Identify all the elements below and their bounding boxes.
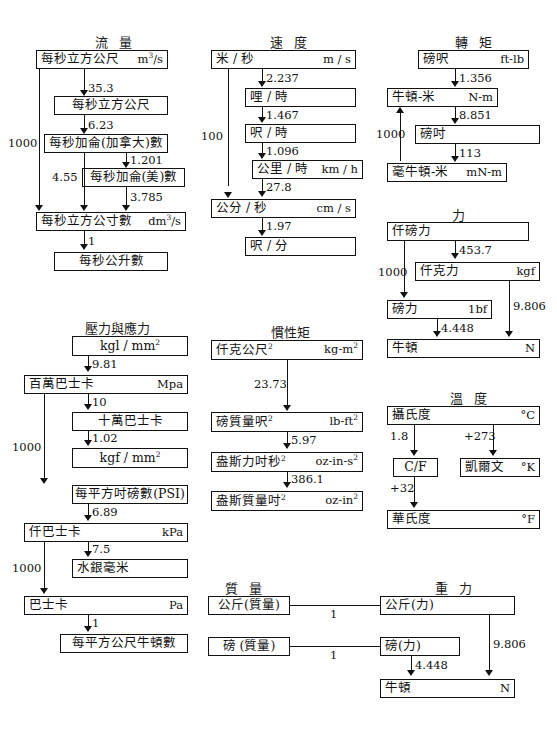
- connector-arrow: [489, 450, 497, 456]
- section-heading-inertia: 慣性矩: [235, 322, 345, 341]
- box-unit: kgf: [516, 266, 535, 278]
- connector-arrow: [258, 191, 266, 197]
- factor-label: 1: [88, 234, 95, 248]
- box-label: 磅質量呎2: [216, 416, 273, 429]
- factor-label: 1.8: [390, 429, 408, 443]
- box-pound-force-weight: 磅(力): [380, 637, 460, 656]
- connector-arrow: [84, 626, 92, 632]
- box-newton-per-square-metre: 每平方公尺牛頓數: [60, 634, 188, 653]
- box-foot-pound: 磅呎 ft-lb: [418, 50, 529, 69]
- box-millinewton-metre: 毫牛頓-米 mN-m: [387, 163, 507, 182]
- section-heading-torque: 轉 矩: [420, 32, 530, 51]
- box-label: 磅呎: [423, 53, 449, 66]
- box-megapascal: 百萬巴士卡 Mpa: [24, 375, 188, 394]
- section-heading-temperature: 溫 度: [425, 388, 515, 407]
- factor-label: 1000: [12, 440, 41, 454]
- box-label: kgl / mm2: [100, 340, 160, 353]
- factor-label: 1: [92, 616, 99, 630]
- box-label: 哩 / 時: [250, 91, 288, 104]
- connector-line: [39, 69, 40, 206]
- box-label: 公斤(質量): [218, 599, 280, 612]
- box-label: 水銀毫米: [77, 562, 129, 575]
- box-label: 每秒立方公寸數: [41, 215, 132, 228]
- box-unit: N: [500, 683, 510, 695]
- box-label: 磅力: [392, 303, 418, 316]
- factor-label: 4.55: [52, 170, 78, 184]
- box-label: 仟巴士卡: [29, 526, 81, 539]
- factor-label: 1: [330, 648, 337, 662]
- factor-label: 453.7: [459, 243, 492, 257]
- connector-arrow: [451, 118, 459, 124]
- box-kilogram-force: 仟克力 kgf: [415, 262, 540, 281]
- factor-label: 1.97: [266, 219, 292, 233]
- connector-arrow: [396, 107, 404, 113]
- box-gallon-us-per-second: 每秒加侖(美)數: [82, 168, 185, 187]
- box-kilopound-force: 仟磅力: [387, 222, 529, 241]
- box-label: 攝氏度: [392, 409, 431, 422]
- box-kilopascal: 仟巴士卡 kPa: [24, 523, 188, 542]
- box-centimetre-per-second: 公分 / 秒 cm / s: [211, 199, 356, 218]
- factor-label: 4.448: [415, 658, 448, 672]
- box-label: 凱爾文: [465, 461, 504, 474]
- connector-arrow: [40, 478, 48, 484]
- box-label: 公分 / 秒: [216, 202, 267, 215]
- box-celsius: 攝氏度 °C: [387, 406, 540, 425]
- connector-arrow: [410, 450, 418, 456]
- box-metre-per-second: 米 / 秒 m / s: [211, 50, 356, 69]
- connector-arrow: [35, 205, 43, 211]
- connector-line: [126, 187, 127, 206]
- factor-label: 35.3: [88, 81, 114, 95]
- box-label: 每秒加侖(美)數: [90, 171, 178, 184]
- factor-label: 9.806: [513, 299, 546, 313]
- box-label: 牛頓: [385, 682, 411, 695]
- connector-arrow: [80, 205, 88, 211]
- connector-line: [290, 646, 380, 647]
- factor-label: 9.81: [92, 357, 118, 371]
- connector-arrow: [258, 117, 266, 123]
- box-label: 公斤(力): [385, 599, 434, 612]
- section-heading-flow: 流 量: [60, 32, 170, 51]
- box-label: 磅 (質量): [223, 640, 276, 653]
- factor-label: 23.73: [254, 377, 287, 391]
- connector-arrow: [80, 90, 88, 96]
- box-unit: oz-in-s2: [315, 456, 358, 468]
- box-unit: °F: [521, 514, 535, 526]
- connector-arrow: [451, 81, 459, 87]
- box-pound-mass-foot-squared: 磅質量呎2 lb-ft2: [211, 412, 363, 432]
- box-ounce-mass-inch-squared: 盎斯質量吋2 oz-in2: [211, 491, 363, 511]
- factor-label: 113: [459, 146, 481, 160]
- box-label: 呎 / 時: [250, 127, 288, 140]
- box-label: 呎 / 分: [250, 240, 288, 253]
- connector-line: [84, 115, 85, 129]
- box-cubic-metre-per-second: 每秒立方公尺 m3/s: [36, 50, 168, 69]
- box-unit: m / s: [323, 54, 351, 66]
- factor-label: 1000: [12, 561, 41, 575]
- box-unit: °K: [521, 462, 535, 474]
- box-newton-metre: 牛頓-米 N-m: [387, 88, 498, 107]
- section-heading-speed: 速 度: [235, 32, 345, 51]
- connector-line: [411, 656, 412, 671]
- connector-arrow: [505, 331, 513, 337]
- factor-label: 8.851: [459, 108, 492, 122]
- factor-label: 27.8: [266, 180, 292, 194]
- box-label: 公里 / 時: [257, 163, 308, 176]
- factor-label: 5.97: [291, 433, 317, 447]
- box-unit: °C: [520, 410, 535, 422]
- connector-arrow: [80, 244, 88, 250]
- section-heading-gravity: 重 力: [400, 578, 510, 597]
- box-kgf-per-mm2: kgf / mm2: [72, 448, 188, 468]
- box-label: 磅(力): [385, 640, 421, 653]
- box-unit: N-m: [468, 92, 493, 104]
- connector-arrow: [84, 366, 92, 372]
- factor-label: 3.785: [130, 190, 163, 204]
- box-label: kgf / mm2: [100, 452, 161, 465]
- box-cubic-foot-per-second: 每秒立方公尺: [54, 96, 168, 115]
- connector-arrow: [485, 670, 493, 676]
- connector-arrow: [283, 482, 291, 488]
- box-label: 磅吋: [420, 128, 446, 141]
- connector-arrow: [258, 230, 266, 236]
- box-label: 盎斯質量吋2: [216, 495, 286, 508]
- factor-label: 6.89: [92, 505, 118, 519]
- connector-line: [84, 153, 85, 206]
- factor-label: 1.201: [130, 153, 163, 167]
